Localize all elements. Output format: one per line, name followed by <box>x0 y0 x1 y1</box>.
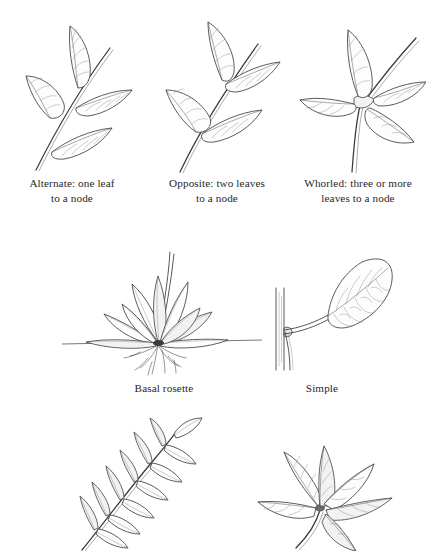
figure-pinnately-compound-leaf <box>74 418 214 551</box>
pinnate-terminal-leaflet <box>174 418 202 438</box>
caption-alternate: Alternate: one leaf to a node <box>0 176 144 205</box>
whorled-leaf-4 <box>365 108 414 143</box>
figure-whorled-leaf-arrangement <box>298 14 426 174</box>
figure-opposite-leaf-arrangement <box>152 14 284 174</box>
whorled-leaf-2 <box>300 98 356 116</box>
figure-palmately-compound-leaf <box>246 436 400 551</box>
illustration-page: Alternate: one leaf to a node <box>0 0 426 551</box>
alternate-leaf-3 <box>76 90 132 116</box>
palmate-leaflet-1 <box>284 452 322 506</box>
caption-opposite: Opposite: two leaves to a node <box>145 176 289 205</box>
simple-blade <box>328 259 392 328</box>
palmate-leaflet-5 <box>258 501 316 518</box>
caption-basal-rosette: Basal rosette <box>108 381 220 396</box>
figure-simple-leaf <box>268 252 396 372</box>
alternate-leaf-1 <box>69 26 90 88</box>
opposite-leaf-pair-upper <box>208 22 280 92</box>
rosette-leaves <box>86 276 228 348</box>
figure-basal-rosette <box>62 250 262 375</box>
alternate-leaf-2 <box>26 76 64 118</box>
rosette-roots <box>124 345 186 375</box>
figure-alternate-leaf-arrangement <box>6 14 138 174</box>
caption-whorled: Whorled: three or more leaves to a node <box>290 176 426 205</box>
whorled-leaf-3 <box>373 82 426 106</box>
whorled-leaf-1 <box>347 30 372 98</box>
alternate-leaf-4 <box>52 128 112 159</box>
simple-stem <box>276 288 284 370</box>
caption-simple: Simple <box>282 381 362 396</box>
